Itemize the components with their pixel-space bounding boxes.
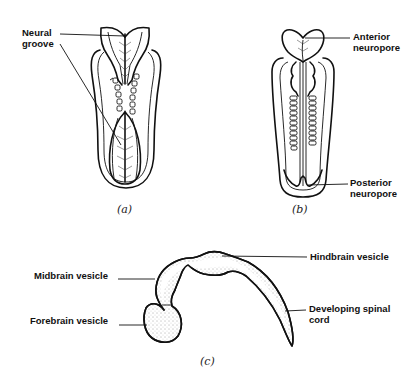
leader-neural-groove-anterior [60,34,125,36]
label-anterior-neuropore: Anterior neuropore [353,31,400,53]
panel-a-embryo [60,27,161,188]
neural-tube-development-figure: Neural groove (a) Anterior neuropore Pos… [0,0,419,391]
label-midbrain-vesicle: Midbrain vesicle [34,270,108,281]
panel-c-brain-vesicles [118,252,307,346]
label-forebrain-vesicle: Forebrain vesicle [30,315,108,326]
label-posterior-neuropore: Posterior neuropore [350,177,397,199]
label-hindbrain-vesicle: Hindbrain vesicle [310,251,389,262]
leader-neural-groove-posterior [60,44,121,145]
label-developing-spinal-cord: Developing spinal cord [309,303,390,325]
caption-panel-a: (a) [117,203,132,216]
label-neural-groove: Neural groove [22,27,54,49]
caption-panel-c: (c) [200,355,215,368]
panel-b-embryo [272,30,350,197]
caption-panel-b: (b) [292,203,308,216]
